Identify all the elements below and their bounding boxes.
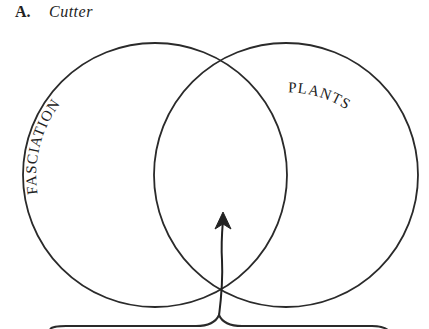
set-label-fasciation-text: FASCIATION (23, 96, 63, 196)
brace-bracket (50, 315, 388, 329)
set-circle-plants (154, 43, 418, 307)
set-label-plants: PLANTS (288, 79, 354, 112)
venn-diagram: FASCIATION PLANTS (0, 0, 429, 329)
arrow-shaft (219, 220, 223, 316)
set-circle-fasciation (23, 43, 287, 307)
set-label-fasciation: FASCIATION (23, 96, 63, 196)
set-label-plants-text: PLANTS (288, 79, 354, 112)
intersection-arrow (215, 212, 231, 316)
